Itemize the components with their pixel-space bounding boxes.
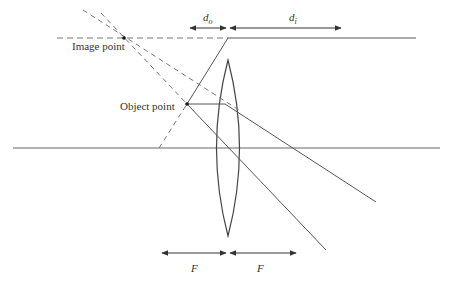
- focal-label-left: F: [190, 262, 198, 274]
- d-o-label: do: [203, 11, 213, 26]
- image-point-label: Image point: [72, 40, 125, 52]
- central-ray: [187, 104, 326, 250]
- virtual-ray-1: [83, 10, 242, 112]
- ray-to-top: [187, 38, 228, 104]
- d-i-label: di: [289, 11, 297, 26]
- focal-label-right: F: [256, 262, 264, 274]
- virtual-ray-2: [101, 13, 187, 104]
- lens-ray-diagram: Image point Object point do di F F: [0, 0, 449, 281]
- object-point-dot: [185, 102, 189, 106]
- object-point-label: Object point: [120, 100, 175, 112]
- refracted-ray: [225, 104, 376, 202]
